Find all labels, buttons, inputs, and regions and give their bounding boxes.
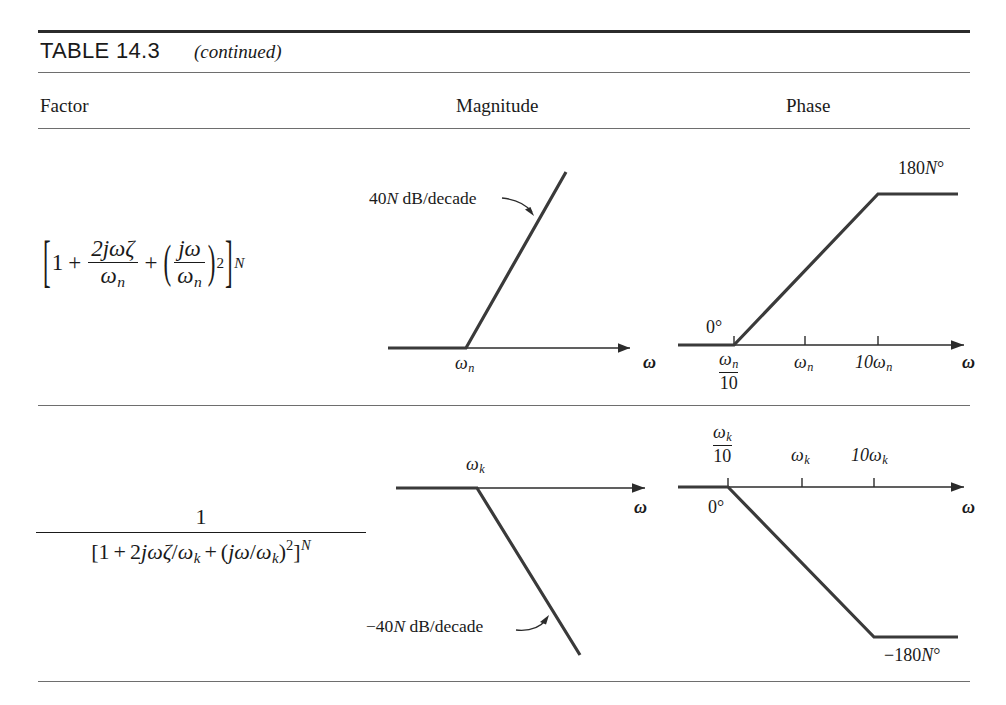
fraction-2-denominator-row1: ωn bbox=[174, 262, 205, 291]
magnitude-break-tick-label-row2: ωk bbox=[466, 454, 485, 477]
phase-end-level-label-row2: −180N° bbox=[884, 645, 940, 666]
phase-axis-label-row2: ω bbox=[962, 497, 975, 518]
table-title-row: TABLE 14.3 (continued) bbox=[40, 38, 282, 70]
paren-close-row1: ) bbox=[208, 237, 216, 289]
magnitude-axis-arrow-row1 bbox=[618, 343, 630, 353]
formula-row2-numerator: 1 bbox=[36, 504, 366, 532]
column-header-phase: Phase bbox=[786, 95, 830, 117]
magnitude-break-tick-label-row1: ωn bbox=[455, 353, 474, 376]
bracket-close-row1: ] bbox=[225, 231, 233, 295]
magnitude-axis-label-row2: ω bbox=[634, 497, 647, 518]
fraction-2-numerator-row1: jω bbox=[174, 236, 205, 262]
phase-axis-arrow-row1 bbox=[951, 340, 964, 350]
column-header-magnitude: Magnitude bbox=[456, 95, 538, 117]
paren-open-row1: ( bbox=[164, 237, 172, 289]
phase-tick-label-2-row1: ωn bbox=[794, 352, 813, 375]
factor-formula-row1: [ 1 + 2jωζ ωn + ( jω ωn ) 2 ] N bbox=[42, 236, 342, 291]
table-page: TABLE 14.3 (continued) Factor Magnitude … bbox=[0, 0, 1006, 705]
magnitude-axis-arrow-row2 bbox=[632, 483, 645, 493]
phase-tick-label-1-row2: ωk 10 bbox=[713, 423, 732, 467]
term-one-row1: 1 bbox=[52, 250, 64, 276]
phase-start-level-label-row2: 0° bbox=[708, 497, 724, 518]
phase-start-level-label-row1: 0° bbox=[706, 317, 722, 338]
phase-axis-arrow-row2 bbox=[951, 482, 964, 492]
phase-tick-label-1-row1: ωn 10 bbox=[719, 350, 738, 394]
magnitude-slope-label-row1: 40N dB/decade bbox=[369, 188, 476, 209]
paren-exponent-row1: 2 bbox=[217, 254, 225, 272]
magnitude-leader-arrow-row1 bbox=[525, 207, 534, 216]
fraction-1-numerator-row1: 2jωζ bbox=[88, 236, 137, 262]
magnitude-axis-label-row1: ω bbox=[643, 352, 656, 373]
rule-top bbox=[38, 30, 970, 33]
rule-between-rows bbox=[38, 405, 970, 406]
bracket-open-row1: [ bbox=[43, 231, 51, 295]
phase-tick-label-3-row1: 10ωn bbox=[855, 352, 892, 375]
magnitude-plot-row1 bbox=[380, 150, 650, 380]
table-number: TABLE 14.3 bbox=[40, 38, 160, 64]
magnitude-plot-row2 bbox=[390, 470, 660, 680]
phase-end-level-label-row1: 180N° bbox=[898, 158, 944, 179]
fraction-1-denominator-row1: ωn bbox=[88, 262, 137, 291]
phase-tick-label-3-row2: 10ωk bbox=[851, 445, 888, 468]
fraction-2-row1: jω ωn bbox=[174, 236, 205, 291]
phase-axis-label-row1: ω bbox=[962, 352, 975, 373]
factor-formula-row2: 1 [1+2jωζ/ωk+(jω/ωk)2]N bbox=[36, 504, 366, 567]
phase-tick-label-2-row2: ωk bbox=[791, 445, 810, 468]
bracket-exponent-row1: N bbox=[234, 254, 244, 272]
magnitude-leader-arrow-row2 bbox=[540, 615, 549, 625]
rule-below-headers bbox=[38, 128, 970, 129]
formula-row2-denominator: [1+2jωζ/ωk+(jω/ωk)2]N bbox=[36, 532, 366, 567]
rule-below-title bbox=[38, 72, 970, 73]
plus-1-row1: + bbox=[63, 250, 86, 276]
magnitude-slope-label-row2: −40N dB/decade bbox=[366, 616, 483, 637]
continued-label: (continued) bbox=[194, 41, 282, 63]
phase-plot-row1 bbox=[672, 160, 972, 380]
column-header-factor: Factor bbox=[40, 95, 89, 117]
fraction-1-row1: 2jωζ ωn bbox=[88, 236, 137, 291]
plus-2-row1: + bbox=[140, 250, 163, 276]
rule-bottom bbox=[38, 681, 970, 682]
